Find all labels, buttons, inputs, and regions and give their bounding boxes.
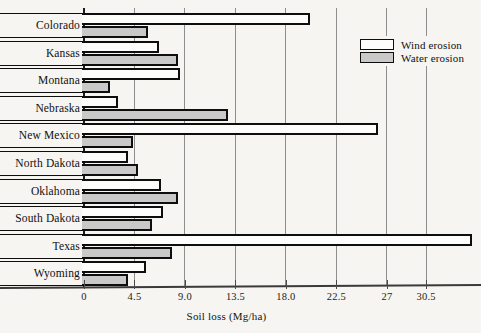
category-label-montana: Montana [0,74,80,86]
category-label-new-mexico: New Mexico [0,129,80,141]
category-label-colorado: Colorado [0,19,80,31]
chart-legend: Wind erosion Water erosion [358,36,466,66]
legend-swatch-wind-icon [360,39,394,50]
x-tick-mark-2 [185,280,186,289]
x-tick-mark-0 [84,280,85,289]
category-label-nebraska: Nebraska [0,102,80,114]
x-tick-label-4: 18.0 [276,291,295,302]
x-axis-title: Soil loss (Mg/ha) [0,310,481,322]
legend-label-water: Water erosion [401,52,464,64]
x-tick-mark-6 [387,280,388,289]
x-tick-mark-7 [426,280,427,289]
x-tick-label-0: 0 [81,291,86,302]
x-tick-mark-5 [336,280,337,289]
x-tick-label-3: 13.5 [226,291,245,302]
category-label-oklahoma: Oklahoma [0,185,80,197]
legend-label-wind: Wind erosion [401,39,462,51]
x-tick-mark-3 [235,280,236,289]
legend-item-water-erosion: Water erosion [360,51,464,64]
legend-swatch-water-icon [360,52,394,63]
x-tick-label-7: 30.5 [417,291,436,302]
category-label-south-dakota: South Dakota [0,212,80,224]
x-tick-mark-4 [286,280,287,289]
category-label-texas: Texas [0,240,80,252]
category-label-kansas: Kansas [0,47,80,59]
x-tick-label-1: 4.5 [128,291,142,302]
soil-loss-bar-chart: ColoradoKansasMontanaNebraskaNew MexicoN… [0,0,481,333]
x-tick-label-5: 22.5 [327,291,346,302]
legend-item-wind-erosion: Wind erosion [360,38,464,51]
category-label-wyoming: Wyoming [0,267,80,279]
x-tick-label-6: 27 [381,291,392,302]
category-label-north-dakota: North Dakota [0,157,80,169]
x-tick-label-2: 9.0 [178,291,192,302]
x-tick-mark-1 [134,280,135,289]
x-axis-title-text: Soil loss (Mg/ha) [187,310,267,322]
